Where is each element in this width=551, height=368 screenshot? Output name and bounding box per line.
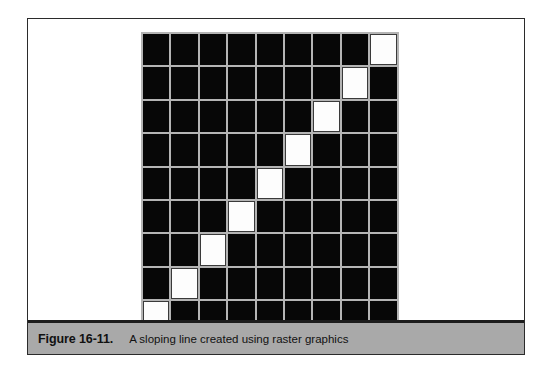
raster-pixel: [200, 101, 226, 132]
raster-pixel: [171, 134, 197, 165]
raster-pixel: [143, 168, 169, 199]
raster-pixel: [342, 168, 368, 199]
raster-pixel: [171, 234, 197, 265]
raster-pixel: [285, 201, 311, 232]
raster-pixel: [370, 201, 396, 232]
raster-pixel: [171, 34, 197, 65]
figure-caption-text: A sloping line created using raster grap…: [129, 333, 348, 345]
raster-pixel: [313, 101, 339, 132]
raster-pixel: [313, 201, 339, 232]
raster-pixel: [370, 101, 396, 132]
raster-pixel: [143, 101, 169, 132]
raster-pixel: [200, 268, 226, 299]
raster-pixel: [200, 67, 226, 98]
raster-pixel: [228, 134, 254, 165]
raster-pixel: [200, 34, 226, 65]
raster-pixel: [200, 234, 226, 265]
raster-pixel: [171, 101, 197, 132]
raster-pixel: [171, 168, 197, 199]
raster-pixel: [228, 268, 254, 299]
raster-pixel: [370, 34, 396, 65]
raster-pixel: [285, 34, 311, 65]
raster-pixel: [285, 168, 311, 199]
raster-pixel: [342, 67, 368, 98]
raster-pixel: [370, 168, 396, 199]
raster-pixel: [370, 268, 396, 299]
raster-pixel: [370, 67, 396, 98]
raster-pixel: [257, 67, 283, 98]
raster-pixel: [200, 201, 226, 232]
figure-caption-label: Figure 16-11.: [38, 332, 113, 346]
raster-pixel: [143, 67, 169, 98]
raster-pixel: [342, 134, 368, 165]
raster-pixel: [285, 268, 311, 299]
raster-pixel: [257, 168, 283, 199]
raster-pixel: [143, 134, 169, 165]
raster-pixel: [313, 67, 339, 98]
raster-pixel: [143, 34, 169, 65]
raster-pixel: [313, 34, 339, 65]
raster-pixel: [313, 234, 339, 265]
raster-pixel: [342, 34, 368, 65]
raster-pixel: [257, 134, 283, 165]
raster-pixel: [342, 234, 368, 265]
raster-pixel: [257, 268, 283, 299]
raster-pixel: [200, 168, 226, 199]
raster-pixel: [313, 134, 339, 165]
raster-pixel: [228, 234, 254, 265]
raster-pixel: [171, 67, 197, 98]
raster-pixel: [257, 101, 283, 132]
page-root: Figure 16-11. A sloping line created usi…: [0, 0, 551, 368]
raster-pixel: [228, 34, 254, 65]
raster-pixel: [285, 67, 311, 98]
raster-pixel: [313, 268, 339, 299]
raster-pixel: [228, 67, 254, 98]
raster-pixel: [285, 101, 311, 132]
raster-pixel: [200, 134, 226, 165]
raster-pixel: [285, 234, 311, 265]
raster-pixel: [257, 34, 283, 65]
raster-pixel-grid: [141, 32, 399, 335]
raster-pixel: [143, 234, 169, 265]
figure-card: Figure 16-11. A sloping line created usi…: [27, 18, 525, 355]
raster-pixel: [342, 101, 368, 132]
raster-pixel: [257, 201, 283, 232]
raster-pixel: [342, 201, 368, 232]
raster-pixel: [228, 101, 254, 132]
raster-pixel: [228, 201, 254, 232]
raster-pixel: [370, 234, 396, 265]
raster-pixel: [143, 268, 169, 299]
figure-caption-bar: Figure 16-11. A sloping line created usi…: [28, 320, 524, 354]
raster-pixel: [171, 201, 197, 232]
raster-pixel: [171, 268, 197, 299]
raster-pixel: [313, 168, 339, 199]
raster-pixel: [257, 234, 283, 265]
raster-pixel: [285, 134, 311, 165]
raster-pixel: [342, 268, 368, 299]
raster-pixel: [370, 134, 396, 165]
raster-pixel: [228, 168, 254, 199]
raster-pixel: [143, 201, 169, 232]
figure-illustration: [28, 19, 524, 322]
